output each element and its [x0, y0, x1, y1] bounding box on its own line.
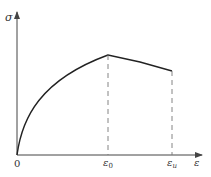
stress-strain-curve — [17, 55, 172, 155]
tick-label-eps0: ε0 — [103, 157, 113, 170]
stress-strain-diagram: σ 0 ε0 εu ε — [0, 0, 211, 177]
tick-label-epsu: εu — [167, 157, 177, 170]
y-axis-label: σ — [5, 11, 13, 24]
x-axis-label: ε — [194, 157, 199, 168]
origin-label: 0 — [14, 158, 20, 169]
